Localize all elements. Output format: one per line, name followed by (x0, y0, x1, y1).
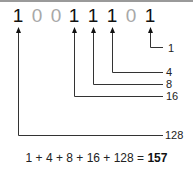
bit-7-arrowhead-icon (16, 27, 21, 33)
bit-7-connector (19, 31, 164, 136)
bit-7-value-label: 128 (165, 130, 183, 141)
sum-equation: 1 + 4 + 8 + 16 + 128 = 157 (0, 151, 193, 165)
bit-4-value-label: 16 (166, 91, 178, 102)
bit-3-arrowhead-icon (91, 27, 96, 33)
bit-2-arrowhead-icon (110, 27, 115, 33)
equation-expression: 1 + 4 + 8 + 16 + 128 = (26, 151, 148, 165)
bit-0-arrowhead-icon (148, 27, 153, 33)
bit-2-value-label: 4 (166, 67, 172, 78)
bit-3-value-label: 8 (166, 79, 172, 90)
bit-4-connector (75, 31, 164, 97)
bit-0-value-label: 1 (168, 43, 174, 54)
equation-result: 157 (147, 151, 167, 165)
bit-0-connector (151, 31, 164, 48)
bit-4-arrowhead-icon (72, 27, 77, 33)
bit-2-connector (113, 31, 164, 73)
bit-3-connector (94, 31, 164, 85)
connector-lines (0, 0, 193, 170)
